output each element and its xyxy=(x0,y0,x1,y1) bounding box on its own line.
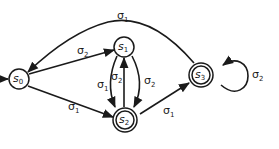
edge-s3-self-loop xyxy=(221,61,248,91)
edge-label-s1-s2-right: σ2 xyxy=(144,74,155,89)
edge-label-s2-s1: σ2 xyxy=(111,70,122,85)
edge-label-s0-s1: σ2 xyxy=(77,44,88,59)
edge-label-s3-s0: σ1 xyxy=(117,9,128,24)
state-s0: s0 xyxy=(9,69,29,89)
edge-s3-s0 xyxy=(28,20,194,72)
state-s2-accepting: s2 xyxy=(113,108,137,132)
edge-s0-s1 xyxy=(29,50,114,74)
state-diagram: σ2 σ1 σ1 σ2 σ2 σ1 σ1 σ2 s0 s1 s2 s3 xyxy=(0,0,279,149)
edge-label-s2-s3: σ1 xyxy=(163,104,174,119)
edge-label-s1-s2-left: σ1 xyxy=(97,78,108,93)
edge-s1-s2-right xyxy=(132,56,140,107)
edge-label-s3-s3: σ2 xyxy=(252,68,263,83)
state-s1: s1 xyxy=(114,37,134,57)
state-s3-accepting: s3 xyxy=(189,63,213,87)
edge-label-s0-s2: σ1 xyxy=(68,100,79,115)
